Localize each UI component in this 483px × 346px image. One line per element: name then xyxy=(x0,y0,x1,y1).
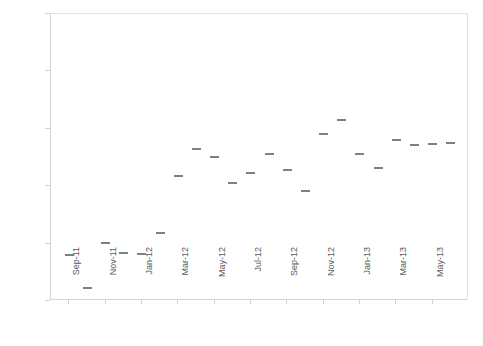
x-tick-mark xyxy=(250,300,251,304)
x-tick-label: Jan-13 xyxy=(363,247,372,307)
x-tick-mark xyxy=(432,300,433,304)
data-point-marker xyxy=(319,133,328,135)
data-point-marker xyxy=(119,252,128,254)
data-point-marker xyxy=(83,287,92,289)
data-point-marker xyxy=(392,139,401,141)
data-point-marker xyxy=(374,167,383,169)
data-point-marker xyxy=(228,182,237,184)
data-point-marker xyxy=(283,169,292,171)
x-tick-mark xyxy=(395,300,396,304)
x-tick-label: Jul-12 xyxy=(254,247,263,307)
data-point-marker xyxy=(410,144,419,146)
y-tick-mark xyxy=(45,300,50,301)
data-point-marker xyxy=(428,143,437,145)
x-tick-label: Sep-12 xyxy=(290,247,299,307)
x-tick-label: Nov-12 xyxy=(327,247,336,307)
x-tick-mark xyxy=(141,300,142,304)
x-tick-label: Mar-12 xyxy=(181,247,190,307)
data-point-marker xyxy=(174,175,183,177)
x-tick-label: Nov-11 xyxy=(109,247,118,307)
x-tick-label: May-12 xyxy=(218,247,227,307)
x-tick-label: May-13 xyxy=(436,247,445,307)
x-tick-mark xyxy=(286,300,287,304)
data-point-marker xyxy=(337,119,346,121)
x-tick-mark xyxy=(359,300,360,304)
x-tick-label: Jan-12 xyxy=(145,247,154,307)
x-tick-label: Sep-11 xyxy=(72,247,81,307)
data-point-marker xyxy=(265,153,274,155)
data-point-marker xyxy=(192,148,201,150)
x-tick-mark xyxy=(105,300,106,304)
data-point-marker xyxy=(246,172,255,174)
data-point-marker xyxy=(210,156,219,158)
data-point-marker xyxy=(355,153,364,155)
x-tick-mark xyxy=(68,300,69,304)
data-point-marker xyxy=(156,232,165,234)
data-point-marker xyxy=(101,242,110,244)
chart-container: Blog views (proportion of total website … xyxy=(0,0,483,346)
x-tick-mark xyxy=(214,300,215,304)
x-tick-mark xyxy=(177,300,178,304)
data-point-marker xyxy=(446,142,455,144)
x-tick-label: Mar-13 xyxy=(399,247,408,307)
x-tick-mark xyxy=(323,300,324,304)
data-point-marker xyxy=(301,190,310,192)
